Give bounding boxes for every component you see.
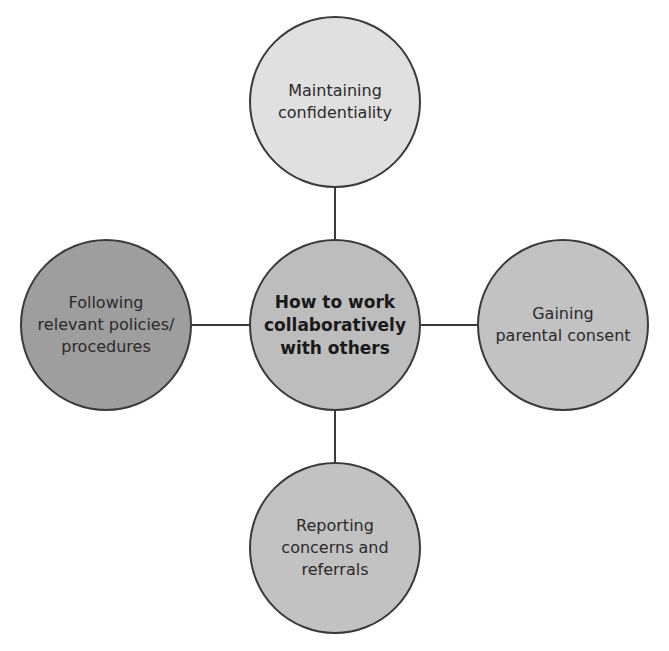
node-label: Maintaining confidentiality [272, 80, 398, 124]
node-gaining-parental-consent: Gaining parental consent [477, 239, 649, 411]
diagram-canvas: Maintaining confidentiality Following re… [0, 0, 669, 651]
node-following-policies: Following relevant policies/ procedures [20, 239, 192, 411]
node-reporting-concerns: Reporting concerns and referrals [249, 462, 421, 634]
node-maintaining-confidentiality: Maintaining confidentiality [249, 16, 421, 188]
node-label: Gaining parental consent [489, 303, 636, 347]
center-label: How to work collaboratively with others [258, 291, 412, 360]
node-label: Following relevant policies/ procedures [32, 292, 181, 358]
node-label: Reporting concerns and referrals [275, 515, 394, 581]
node-center-collaborative-work: How to work collaboratively with others [249, 239, 421, 411]
